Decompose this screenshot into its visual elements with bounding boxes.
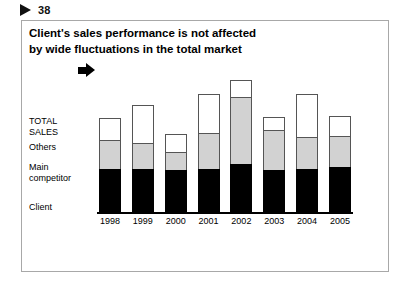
x-tick-label-1999: 1999 [132, 216, 154, 226]
arrow-head [86, 63, 95, 77]
bar-segment-client-2005 [329, 167, 351, 212]
bar-segment-client-2003 [263, 170, 285, 212]
x-tick-label-2004: 2004 [296, 216, 318, 226]
bar-segment-main-competitor-2002 [230, 97, 252, 165]
legend-item-total-sales: TOTAL SALES [29, 116, 58, 138]
bar-segment-client-2004 [296, 169, 318, 212]
legend-client-label: Client [29, 202, 52, 213]
bar-1998 [99, 118, 121, 212]
x-tick-label-1998: 1998 [99, 216, 121, 226]
legend-main-competitor-line2: competitor [29, 173, 71, 184]
bar-2002 [230, 80, 252, 212]
bar-1999 [132, 105, 154, 212]
legend-item-others: Others [29, 142, 56, 153]
stacked-bar-chart: TOTAL SALES Others Main competitor Clien… [0, 0, 368, 252]
bar-segment-client-1998 [99, 169, 121, 212]
bar-segment-main-competitor-2004 [296, 137, 318, 169]
bar-segment-main-competitor-2003 [263, 130, 285, 170]
legend-total-sales-line1: TOTAL [29, 116, 58, 127]
arrow-right-icon [78, 63, 96, 78]
bar-segment-others-2004 [296, 94, 318, 137]
x-axis-labels: 19981999200020012002200320042005 [99, 216, 351, 226]
plot-area [99, 68, 351, 212]
bar-segment-main-competitor-1998 [99, 140, 121, 169]
legend-item-client: Client [29, 202, 52, 213]
bar-2001 [198, 94, 220, 212]
bar-segment-client-2001 [198, 169, 220, 212]
x-tick-label-2005: 2005 [329, 216, 351, 226]
x-tick-label-2002: 2002 [230, 216, 252, 226]
x-tick-label-2000: 2000 [165, 216, 187, 226]
x-axis-line [97, 212, 353, 214]
bar-segment-others-2000 [165, 134, 187, 151]
bar-segment-others-2002 [230, 80, 252, 97]
bar-segment-main-competitor-2005 [329, 136, 351, 168]
bar-segment-client-1999 [132, 169, 154, 212]
bar-2000 [165, 134, 187, 212]
slide-canvas: 38 Client's sales performance is not aff… [0, 0, 408, 295]
bar-segment-main-competitor-1999 [132, 143, 154, 169]
bar-segment-main-competitor-2001 [198, 133, 220, 169]
x-tick-label-2003: 2003 [263, 216, 285, 226]
bar-segment-client-2002 [230, 164, 252, 212]
bar-group [99, 68, 351, 212]
bar-segment-others-2001 [198, 94, 220, 133]
bar-2005 [329, 116, 351, 212]
x-tick-label-2001: 2001 [198, 216, 220, 226]
legend-others-label: Others [29, 142, 56, 153]
bar-segment-main-competitor-2000 [165, 152, 187, 171]
bar-2004 [296, 94, 318, 212]
bar-2003 [263, 117, 285, 212]
legend-item-main-competitor: Main competitor [29, 162, 71, 184]
legend-total-sales-line2: SALES [29, 127, 58, 138]
bar-segment-others-2003 [263, 117, 285, 130]
bar-segment-others-1999 [132, 105, 154, 142]
bar-segment-client-2000 [165, 170, 187, 212]
bar-segment-others-2005 [329, 116, 351, 136]
legend-main-competitor-line1: Main [29, 162, 71, 173]
bar-segment-others-1998 [99, 118, 121, 140]
